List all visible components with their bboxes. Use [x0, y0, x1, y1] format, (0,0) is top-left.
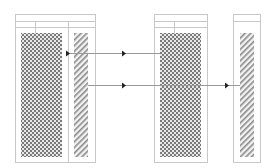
right-hatched-block: [240, 33, 254, 157]
middle-crosshatch-block: [160, 33, 201, 157]
connectors-layer: [66, 51, 240, 89]
arrowhead-right-icon: [225, 83, 229, 89]
arrowhead-right-icon: [122, 51, 126, 57]
left-hatched-block: [74, 33, 88, 157]
left-crosshatch-block: [21, 33, 62, 157]
arrowhead-right-icon: [122, 83, 126, 89]
blocks-layer: [21, 33, 254, 157]
flow-diagram: [0, 0, 273, 168]
